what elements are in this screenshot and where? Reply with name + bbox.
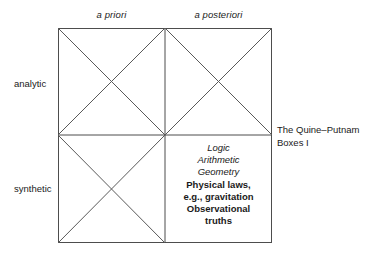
row-label-analytic: analytic — [14, 78, 46, 89]
caption-line-1: The Quine–Putnam — [277, 123, 377, 136]
quine-putnam-boxes-figure: a priori a posteriori analytic synthetic — [0, 0, 380, 257]
matrix-box: Logic Arithmetic Geometry Physical laws,… — [58, 28, 272, 243]
cell-line-physical-laws: Physical laws, — [186, 179, 250, 191]
cell-content-synthetic-a-posteriori: Logic Arithmetic Geometry Physical laws,… — [165, 135, 272, 243]
cell-cross-analytic-a-priori — [58, 28, 165, 135]
cell-line-truths: truths — [205, 215, 232, 227]
figure-caption: The Quine–Putnam Boxes I — [277, 123, 377, 149]
cell-cross-synthetic-a-priori — [58, 135, 165, 243]
cell-cross-analytic-a-posteriori — [165, 28, 272, 135]
cell-line-observational: Observational — [187, 203, 250, 215]
row-label-synthetic: synthetic — [14, 183, 52, 194]
column-header-a-posteriori: a posteriori — [165, 9, 272, 20]
cell-line-gravitation: e.g., gravitation — [183, 191, 253, 203]
cell-line-geometry: Geometry — [198, 166, 240, 178]
cell-line-logic: Logic — [207, 142, 230, 154]
column-header-a-priori: a priori — [58, 9, 165, 20]
cell-line-arithmetic: Arithmetic — [197, 154, 239, 166]
caption-line-2: Boxes I — [277, 136, 377, 149]
